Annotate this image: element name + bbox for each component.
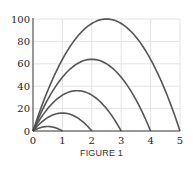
figure-caption: FIGURE 1 [0,148,193,158]
y-tick-label: 80 [17,36,30,47]
x-tick-label: 0 [30,135,36,146]
y-tick-label: 40 [17,81,30,92]
y-tick-label: 20 [17,103,30,114]
x-tick-label: 1 [59,135,65,146]
curve-3 [33,91,121,131]
x-tick-label: 2 [89,135,95,146]
x-tick-label: 4 [147,135,153,146]
x-tick-label: 3 [118,135,124,146]
curve-1 [33,127,62,131]
y-tick-label: 0 [24,126,30,137]
y-tick-label: 60 [17,58,30,69]
x-tick-label: 5 [177,135,183,146]
y-tick-label: 100 [11,14,30,25]
curves [33,19,180,131]
